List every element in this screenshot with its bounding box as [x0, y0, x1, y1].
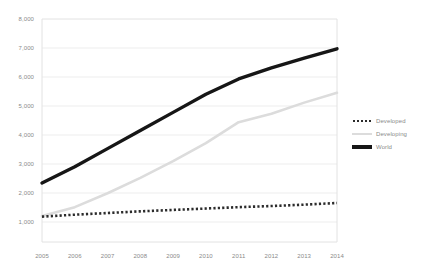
x-axis-tick-2006: 2006 — [58, 253, 92, 259]
x-axis-tick-2014: 2014 — [320, 253, 354, 259]
y-axis-tick-4000: 4,000 — [0, 132, 34, 138]
legend-item-world[interactable]: World — [352, 141, 424, 153]
plot-frame — [42, 19, 337, 242]
light-line-key-icon — [352, 129, 372, 139]
y-axis-tick-5000: 5,000 — [0, 103, 34, 109]
x-axis-tick-2012: 2012 — [254, 253, 288, 259]
y-axis-tick-6000: 6,000 — [0, 74, 34, 80]
chart-legend: Developed Developing World — [352, 115, 424, 154]
x-axis-tick-2011: 2011 — [222, 253, 256, 259]
legend-item-developing[interactable]: Developing — [352, 128, 424, 140]
series-line-developing — [42, 93, 337, 216]
x-axis-tick-2007: 2007 — [91, 253, 125, 259]
series-line-world — [42, 49, 337, 183]
x-axis-tick-2010: 2010 — [189, 253, 223, 259]
y-axis-tick-3000: 3,000 — [0, 161, 34, 167]
y-axis-tick-1000: 1,000 — [0, 219, 34, 225]
bold-line-key-icon — [352, 142, 372, 152]
y-axis-tick-8000: 8,000 — [0, 16, 34, 22]
series-line-developed — [42, 203, 337, 217]
y-axis-tick-2000: 2,000 — [0, 190, 34, 196]
dotted-line-key-icon — [352, 116, 372, 126]
legend-item-developed[interactable]: Developed — [352, 115, 424, 127]
x-axis-tick-2008: 2008 — [123, 253, 157, 259]
x-axis-tick-2009: 2009 — [156, 253, 190, 259]
y-axis-tick-7000: 7,000 — [0, 45, 34, 51]
legend-label-world: World — [376, 144, 392, 150]
legend-label-developing: Developing — [376, 131, 407, 137]
x-axis-tick-2005: 2005 — [25, 253, 59, 259]
line-chart-figure: 8,000 7,000 6,000 5,000 4,000 3,000 2,00… — [0, 0, 426, 277]
x-axis-tick-2013: 2013 — [287, 253, 321, 259]
grid-lines — [42, 19, 337, 222]
legend-label-developed: Developed — [376, 118, 406, 124]
